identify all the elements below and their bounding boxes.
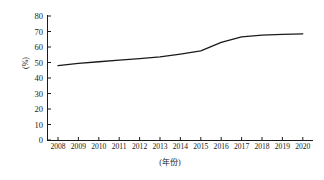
data-series-line [58,34,303,66]
chart-screenshot: (%) 0 10 20 30 40 50 60 70 80 2008 2009 … [0,0,324,180]
chart-plot-area [0,0,324,180]
y-axis-ticks [48,16,52,140]
x-axis-label-text: (年份) [159,158,180,167]
x-axis-label: (年份) [0,156,324,167]
x-axis-ticks [58,137,303,141]
